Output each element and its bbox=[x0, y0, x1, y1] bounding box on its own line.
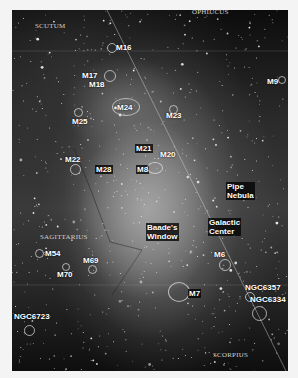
constellation-ophiucus: OPHIUCUS bbox=[192, 10, 229, 16]
constellation-line-lower bbox=[112, 250, 142, 295]
label-ngc6334: NGC6334 bbox=[250, 295, 286, 304]
label-m17: M17 bbox=[82, 71, 98, 80]
m8-marker bbox=[147, 162, 163, 174]
label-m23: M23 bbox=[166, 111, 182, 120]
label-m20: M20 bbox=[160, 150, 176, 159]
label-ngc6357: NGC6357 bbox=[245, 283, 281, 292]
m25-marker bbox=[74, 108, 83, 117]
m7-marker bbox=[168, 282, 190, 302]
label-m70: M70 bbox=[57, 270, 73, 279]
constellation-scorpius: SCORPIUS bbox=[213, 351, 248, 359]
m6-marker bbox=[219, 259, 231, 271]
label-m54: M54 bbox=[45, 249, 61, 258]
m54-marker bbox=[35, 249, 44, 258]
m22-marker bbox=[70, 164, 81, 175]
m17-marker bbox=[104, 70, 116, 82]
m69-marker bbox=[88, 265, 97, 274]
ngc6334-marker bbox=[252, 306, 267, 321]
label-ngc6723: NGC6723 bbox=[14, 312, 50, 321]
label-m22: M22 bbox=[65, 155, 81, 164]
label-m6: M6 bbox=[214, 250, 225, 259]
label-m16: M16 bbox=[116, 43, 132, 52]
label-m25: M25 bbox=[72, 117, 88, 126]
label-baades-window: Baade'sWindow bbox=[146, 223, 179, 241]
constellation-scutum: SCUTUM bbox=[35, 22, 65, 30]
label-m24: M24 bbox=[117, 103, 133, 112]
label-m18: M18 bbox=[89, 80, 105, 89]
ngc6723-marker bbox=[24, 325, 35, 336]
constellation-sagittarius: SAGITTARIUS bbox=[40, 233, 88, 241]
milky-way-photo: SCUTUM OPHIUCUS SAGITTARIUS SCORPIUS M16… bbox=[12, 10, 288, 371]
label-m9: M9 bbox=[267, 77, 278, 86]
label-m69: M69 bbox=[83, 256, 99, 265]
m9-marker bbox=[278, 76, 286, 84]
label-galactic-center: GalacticCenter bbox=[208, 218, 241, 236]
label-pipe-nebula: PipeNebula bbox=[226, 182, 255, 200]
label-m7: M7 bbox=[188, 289, 201, 298]
label-m28: M28 bbox=[95, 165, 113, 174]
label-m21: M21 bbox=[135, 144, 153, 153]
